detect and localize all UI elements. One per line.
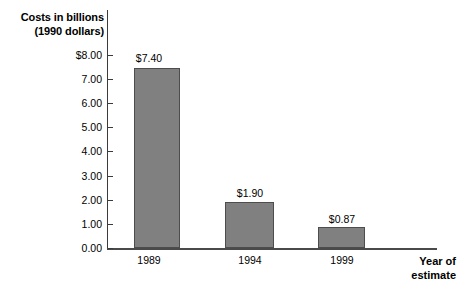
y-tick-label: 7.00	[38, 74, 102, 84]
bar-value-label-1989: $7.40	[114, 53, 184, 64]
x-axis-title-line-2: estimate	[380, 268, 456, 282]
y-tick-label: 0.00	[38, 243, 102, 253]
x-category-label-1989: 1989	[122, 255, 176, 266]
y-axis-title-line-1: Costs in billions	[6, 10, 104, 24]
y-tick-label: 6.00	[38, 98, 102, 108]
y-tick-mark	[108, 248, 113, 249]
x-axis-title-line-1: Year of	[380, 254, 456, 268]
y-tick-label: 1.00	[38, 219, 102, 229]
x-axis-title: Year of estimate	[380, 254, 456, 282]
bar-1989	[134, 68, 180, 248]
bar-1994	[225, 202, 274, 248]
y-axis-title-line-2: (1990 dollars)	[6, 24, 104, 38]
bar-value-label-1999: $0.87	[307, 214, 377, 225]
y-tick-label: 3.00	[38, 171, 102, 181]
plot-area	[108, 10, 437, 248]
y-tick-label: 4.00	[38, 146, 102, 156]
y-axis-title: Costs in billions (1990 dollars)	[6, 10, 104, 38]
y-tick-label: 5.00	[38, 122, 102, 132]
y-tick-label: $8.00	[38, 50, 102, 60]
bar-chart: Costs in billions (1990 dollars) $8.00 7…	[0, 0, 463, 283]
x-category-label-1994: 1994	[223, 255, 277, 266]
bar-1999	[318, 227, 365, 248]
y-tick-label: 2.00	[38, 195, 102, 205]
x-axis-line	[107, 248, 437, 250]
x-category-label-1999: 1999	[315, 255, 369, 266]
bar-value-label-1994: $1.90	[215, 188, 285, 199]
